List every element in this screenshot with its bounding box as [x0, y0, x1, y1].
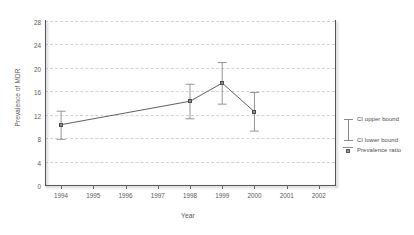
right-axis-line	[335, 20, 336, 186]
legend-label-ci-upper: CI upper bound	[357, 116, 399, 122]
x-tick-1994	[61, 185, 62, 189]
y-tick-label-20: 20	[34, 65, 41, 72]
x-axis-title: Year	[40, 212, 336, 219]
square-marker-icon	[346, 149, 350, 153]
x-tick-1996	[126, 185, 127, 189]
x-tick-label-1995: 1995	[86, 192, 100, 199]
gridline-8: 8	[45, 138, 335, 139]
legend-label-ci-lower: CI lower bound	[357, 137, 398, 143]
gridline-20: 20	[45, 68, 335, 69]
gridline-12: 12	[45, 115, 335, 116]
legend-marker-cap-icon	[343, 147, 353, 148]
x-tick-1999	[222, 185, 223, 189]
y-tick-label-0: 0	[37, 183, 41, 190]
data-marker-1998	[188, 99, 192, 103]
x-tick-label-2002: 2002	[312, 192, 326, 199]
x-tick-label-1997: 1997	[151, 192, 165, 199]
y-tick-label-16: 16	[34, 89, 41, 96]
x-tick-2000	[254, 185, 255, 189]
y-tick-label-4: 4	[37, 159, 41, 166]
y-tick-label-24: 24	[34, 42, 41, 49]
x-tick-1995	[93, 185, 94, 189]
y-tick-label-12: 12	[34, 112, 41, 119]
x-tick-label-2000: 2000	[247, 192, 261, 199]
gridline-4: 4	[45, 162, 335, 163]
y-tick-label-8: 8	[37, 136, 41, 143]
x-tick-label-1999: 1999	[215, 192, 229, 199]
data-marker-1994	[59, 123, 63, 127]
x-tick-1998	[190, 185, 191, 189]
x-tick-2001	[287, 185, 288, 189]
legend-label-prevalence-ratio: Prevalence ratio	[357, 147, 401, 153]
x-tick-label-1998: 1998	[183, 192, 197, 199]
gridline-24: 24	[45, 44, 335, 45]
x-tick-label-1994: 1994	[54, 192, 68, 199]
x-tick-2002	[319, 185, 320, 189]
gridline-16: 16	[45, 91, 335, 92]
data-marker-1999	[220, 81, 224, 85]
y-axis-line	[45, 20, 46, 186]
legend-error-bar-upper-cap-icon	[344, 119, 353, 120]
legend-error-bar-lower-cap-icon	[344, 140, 353, 141]
gridline-28: 28	[45, 21, 335, 22]
x-tick-label-2001: 2001	[280, 192, 294, 199]
y-axis-title: Prevalence of MDR	[14, 43, 21, 153]
x-tick-label-1996: 1996	[119, 192, 133, 199]
y-tick-label-28: 28	[34, 19, 41, 26]
x-tick-1997	[158, 185, 159, 189]
data-marker-2000	[252, 110, 256, 114]
legend-error-bar-icon	[348, 119, 349, 141]
prevalence-of-mdr-chart: Prevalence of MDR Year 0481216202428 199…	[0, 0, 414, 235]
